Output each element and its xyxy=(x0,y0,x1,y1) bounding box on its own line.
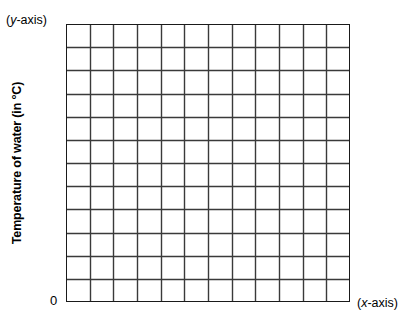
plot-grid-area xyxy=(66,24,350,302)
plot-grid xyxy=(66,24,350,302)
x-axis-caption-suffix: -axis) xyxy=(367,296,398,310)
y-axis-caption-suffix: -axis) xyxy=(16,13,47,27)
x-axis-caption: (x-axis) xyxy=(357,296,398,310)
y-axis-title-container: Temperature of water (in °C) xyxy=(6,38,28,288)
y-axis-caption: (y-axis) xyxy=(6,13,47,27)
y-axis-title: Temperature of water (in °C) xyxy=(10,82,24,244)
origin-label: 0 xyxy=(50,294,57,307)
graph-figure: (y-axis) Temperature of water (in °C) 0 … xyxy=(0,0,409,325)
